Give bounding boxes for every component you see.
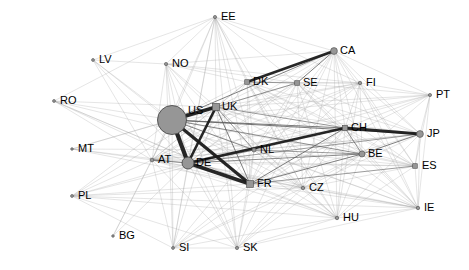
graph-node-no[interactable] <box>164 62 167 65</box>
graph-node-ca[interactable] <box>331 48 338 55</box>
graph-node-label-pl: PL <box>78 189 91 201</box>
graph-node-label-bg: BG <box>119 229 135 241</box>
graph-node-mt[interactable] <box>71 148 74 151</box>
graph-node-bg[interactable] <box>112 235 115 238</box>
graph-node-label-at: AT <box>158 153 172 165</box>
graph-node-label-mt: MT <box>78 142 94 154</box>
edge-layer <box>54 17 430 248</box>
graph-edge <box>72 196 337 218</box>
graph-edge <box>72 196 237 248</box>
graph-edge <box>215 17 237 248</box>
graph-node-nl[interactable] <box>252 148 256 152</box>
graph-node-label-ch: CH <box>351 121 367 133</box>
graph-node-label-lv: LV <box>99 53 112 65</box>
graph-node-label-fr: FR <box>257 177 272 189</box>
graph-edge <box>72 149 254 150</box>
graph-edge <box>93 60 152 160</box>
graph-node-fr[interactable] <box>247 181 254 188</box>
graph-node-label-pt: PT <box>436 88 450 100</box>
graph-edge <box>215 17 216 107</box>
graph-node-lv[interactable] <box>92 59 95 62</box>
graph-edge <box>237 208 418 248</box>
graph-node-label-ro: RO <box>60 94 77 106</box>
graph-edge <box>237 184 250 248</box>
graph-node-es[interactable] <box>413 164 418 169</box>
graph-node-jp[interactable] <box>417 131 424 138</box>
graph-node-label-sk: SK <box>243 241 258 253</box>
graph-edge <box>360 83 418 208</box>
graph-edge <box>334 51 420 134</box>
graph-edge <box>237 150 254 248</box>
graph-node-uk[interactable] <box>212 103 219 110</box>
graph-node-se[interactable] <box>295 81 300 86</box>
graph-node-label-dk: DK <box>253 75 269 87</box>
graph-node-de[interactable] <box>182 157 194 169</box>
graph-edge <box>250 83 297 184</box>
graph-node-ie[interactable] <box>416 206 419 209</box>
graph-node-label-ee: EE <box>221 10 236 22</box>
graph-node-us[interactable] <box>158 106 187 135</box>
graph-edge <box>418 95 430 208</box>
graph-node-label-fi: FI <box>366 76 376 88</box>
graph-node-label-se: SE <box>303 76 318 88</box>
graph-node-label-es: ES <box>422 159 437 171</box>
graph-edge <box>216 107 420 134</box>
graph-edge <box>250 134 420 184</box>
graph-edge <box>215 17 334 51</box>
graph-node-si[interactable] <box>172 247 175 250</box>
graph-node-label-ie: IE <box>424 201 434 213</box>
graph-node-label-uk: UK <box>222 100 238 112</box>
graph-node-pt[interactable] <box>428 93 431 96</box>
graph-node-ro[interactable] <box>53 100 56 103</box>
graph-node-cz[interactable] <box>301 186 304 189</box>
graph-node-hu[interactable] <box>335 216 338 219</box>
graph-node-label-no: NO <box>172 57 189 69</box>
graph-node-label-hu: HU <box>343 211 359 223</box>
graph-node-ch[interactable] <box>342 125 347 130</box>
graph-edge <box>415 166 418 208</box>
graph-node-ee[interactable] <box>213 15 216 18</box>
graph-node-label-nl: NL <box>260 143 274 155</box>
graph-node-label-si: SI <box>179 241 189 253</box>
graph-node-pl[interactable] <box>71 195 74 198</box>
graph-edge <box>250 184 418 208</box>
graph-edge <box>166 64 216 107</box>
graph-node-label-be: BE <box>368 147 383 159</box>
graph-edge <box>72 184 250 196</box>
graph-node-sk[interactable] <box>235 246 238 249</box>
graph-node-be[interactable] <box>359 151 365 157</box>
graph-edge <box>237 154 362 248</box>
graph-node-label-us: US <box>188 104 203 116</box>
graph-edge <box>54 101 152 160</box>
graph-node-fi[interactable] <box>358 81 361 84</box>
graph-edge <box>72 188 303 196</box>
graph-node-label-de: DE <box>196 156 211 168</box>
network-graph-figure: EECALVNODKSEFIPTROUKUSCHJPNLBEMTATDEESFR… <box>0 0 469 270</box>
graph-edge <box>360 83 362 154</box>
network-graph-canvas: EECALVNODKSEFIPTROUKUSCHJPNLBEMTATDEESFR… <box>0 0 469 270</box>
graph-node-at[interactable] <box>150 158 154 162</box>
graph-edge <box>250 184 337 218</box>
graph-node-dk[interactable] <box>245 80 250 85</box>
graph-edge <box>360 83 420 134</box>
graph-node-label-cz: CZ <box>309 181 324 193</box>
graph-node-label-jp: JP <box>427 127 440 139</box>
graph-node-label-ca: CA <box>340 44 356 56</box>
graph-edge <box>237 128 345 248</box>
